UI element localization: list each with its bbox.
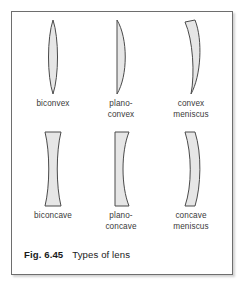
- lens-cell-convex-meniscus: convex meniscus: [158, 18, 224, 120]
- concave-meniscus-lens-icon: [171, 130, 211, 208]
- lens-cell-biconcave: biconcave: [20, 130, 86, 222]
- biconcave-lens-icon: [33, 130, 73, 208]
- lens-cell-concave-meniscus: concave meniscus: [158, 130, 224, 232]
- lens-label-biconvex: biconvex: [20, 99, 86, 110]
- convex-meniscus-lens-icon: [171, 18, 211, 96]
- lens-cell-plano-concave: plano- concave: [88, 130, 154, 232]
- lens-cell-plano-convex: plano- convex: [88, 18, 154, 120]
- plano-concave-lens-icon: [101, 130, 141, 208]
- figure-title: Types of lens: [72, 249, 130, 260]
- lens-label-plano-convex: plano- convex: [88, 99, 154, 120]
- plano-convex-lens-icon: [101, 18, 141, 96]
- lens-cell-biconvex: biconvex: [20, 18, 86, 110]
- lens-label-plano-concave: plano- concave: [88, 211, 154, 232]
- figure-container: biconvex plano- convex convex meniscus b…: [11, 11, 233, 275]
- lens-grid: biconvex plano- convex convex meniscus b…: [12, 12, 232, 234]
- biconvex-lens-icon: [33, 18, 73, 96]
- figure-number: Fig. 6.45: [24, 249, 63, 260]
- lens-label-biconcave: biconcave: [20, 211, 86, 222]
- lens-label-convex-meniscus: convex meniscus: [158, 99, 224, 120]
- lens-label-concave-meniscus: concave meniscus: [158, 211, 224, 232]
- figure-caption: Fig. 6.45Types of lens: [24, 249, 130, 260]
